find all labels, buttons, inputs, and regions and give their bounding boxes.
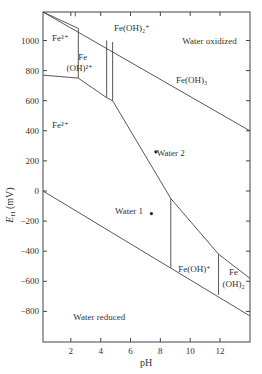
y-tick-label: −200	[20, 216, 39, 226]
y-tick-label: −600	[20, 276, 39, 286]
y-tick-label: −800	[20, 306, 39, 316]
y-axis-label-main: E	[4, 217, 15, 224]
region-label: Fe³⁺	[52, 33, 69, 43]
y-tick-label: 800	[26, 66, 40, 76]
feoh3-feoh-line	[171, 199, 219, 255]
x-tick-label: 10	[186, 346, 196, 356]
region-label: Fe(OH)⁺	[178, 264, 211, 274]
y-tick-label: 0	[35, 186, 40, 196]
fe3-top-line	[43, 12, 78, 28]
region-label: Water 1	[115, 206, 143, 216]
region-label: Water oxidized	[182, 36, 237, 46]
phase-boundaries	[43, 12, 250, 316]
y-tick-label: 1000	[21, 36, 40, 46]
y-tick-label: 600	[26, 96, 40, 106]
eh-ph-diagram: 2468101210008006004002000−200−400−600−80…	[0, 0, 262, 374]
region-label: Water 2	[157, 148, 185, 158]
y-tick-label: 400	[26, 126, 40, 136]
region-label: (OH)₂	[222, 279, 244, 289]
feoh2plus-bottom	[107, 98, 113, 101]
x-tick-label: 2	[69, 346, 74, 356]
fe3-fe2-line	[43, 75, 78, 78]
region-label: Fe²⁺	[52, 120, 69, 130]
region-label: (OH)²⁺	[66, 63, 93, 73]
x-tick-label: 8	[158, 346, 163, 356]
region-label: Fe(OH)₃	[176, 75, 207, 85]
y-axis-label-unit: (mV)	[4, 187, 16, 211]
y-tick-label: −400	[20, 246, 39, 256]
x-tick-label: 12	[216, 346, 225, 356]
sample-points	[150, 150, 158, 215]
x-tick-label: 6	[128, 346, 133, 356]
region-labels: Fe³⁺Fe(OH)²⁺Fe(OH)₂⁺Water oxidizedFe(OH)…	[52, 23, 244, 322]
region-label: Fe(OH)₂⁺	[114, 23, 150, 33]
sample-point-marker	[150, 212, 153, 215]
region-label: Water reduced	[73, 312, 125, 322]
y-axis-label: EH (mV)	[4, 187, 17, 223]
axes: 2468101210008006004002000−200−400−600−80…	[20, 12, 250, 356]
sample-point-marker	[154, 150, 157, 153]
feoh2-fe2-line	[78, 78, 106, 98]
region-label: Fe	[229, 267, 238, 277]
y-tick-label: 200	[26, 156, 40, 166]
pourbaix-plot: 2468101210008006004002000−200−400−600−80…	[0, 0, 262, 374]
water-reduced-line	[43, 191, 250, 316]
x-axis-label: pH	[140, 357, 152, 368]
x-tick-label: 4	[98, 346, 103, 356]
region-label: Fe	[78, 52, 87, 62]
